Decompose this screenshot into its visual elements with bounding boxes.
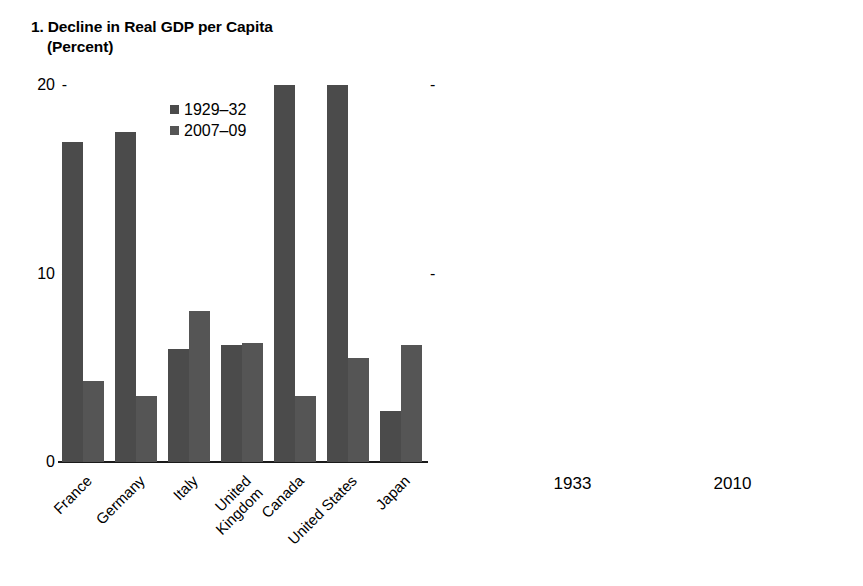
bar-united-kingdom-2007-09 — [242, 343, 263, 462]
bar-france-2007-09 — [83, 381, 104, 462]
y-tick-label-left-10: 10 — [37, 266, 55, 282]
panel-left-number: 1. — [31, 18, 44, 35]
bar-united-states-1929-32 — [327, 85, 348, 462]
bar-japan-2007-09 — [401, 345, 422, 462]
y-tick-mark-left-right-20: - — [430, 77, 435, 93]
bar-germany-1929-32 — [115, 132, 136, 462]
bar-united-states-2007-09 — [348, 358, 369, 462]
legend-label-1929-32: 1929–32 — [184, 101, 246, 119]
panel-us-peak-unemployment: 2.US Peak Unemployment Rate (Percent) -2… — [440, 0, 863, 586]
category-label-italy: Italy — [170, 472, 201, 503]
legend-swatch-2007-09 — [170, 126, 179, 135]
year-label-2010: 2010 — [714, 474, 752, 494]
bar-italy-2007-09 — [189, 311, 210, 462]
bar-france-1929-32 — [62, 142, 83, 462]
category-label-united-kingdom: UnitedKingdom — [200, 472, 266, 538]
y-tick-mark-left-right-10: - — [430, 266, 435, 282]
y-tick-label-left-0: 0 — [46, 454, 55, 470]
panel-left-subtitle: (Percent) — [47, 37, 273, 57]
legend-label-2007-09: 2007–09 — [184, 122, 246, 140]
category-label-germany: Germany — [92, 472, 148, 528]
year-label-1933: 1933 — [554, 474, 592, 494]
bar-italy-1929-32 — [168, 349, 189, 462]
legend-left: 1929–32 2007–09 — [170, 99, 246, 141]
legend-item-2007-09: 2007–09 — [170, 120, 246, 141]
bar-germany-2007-09 — [136, 396, 157, 462]
bar-canada-1929-32 — [274, 85, 295, 462]
panel-left-title: 1.Decline in Real GDP per Capita (Percen… — [31, 17, 273, 57]
bar-japan-1929-32 — [380, 411, 401, 462]
panel-left-title-text: Decline in Real GDP per Capita — [48, 18, 273, 35]
legend-item-1929-32: 1929–32 — [170, 99, 246, 120]
panel-decline-real-gdp: 1.Decline in Real GDP per Capita (Percen… — [0, 0, 440, 586]
legend-swatch-1929-32 — [170, 105, 179, 114]
plot-area-left: 20--10--0 — [58, 85, 428, 462]
category-label-japan: Japan — [372, 472, 413, 513]
y-tick-label-left-20: 20 — [37, 77, 55, 93]
figure: 1.Decline in Real GDP per Capita (Percen… — [0, 0, 863, 586]
category-label-france: France — [50, 472, 95, 517]
bar-united-kingdom-1929-32 — [221, 345, 242, 462]
bar-canada-2007-09 — [295, 396, 316, 462]
y-tick-mark-left-20: - — [62, 77, 67, 93]
